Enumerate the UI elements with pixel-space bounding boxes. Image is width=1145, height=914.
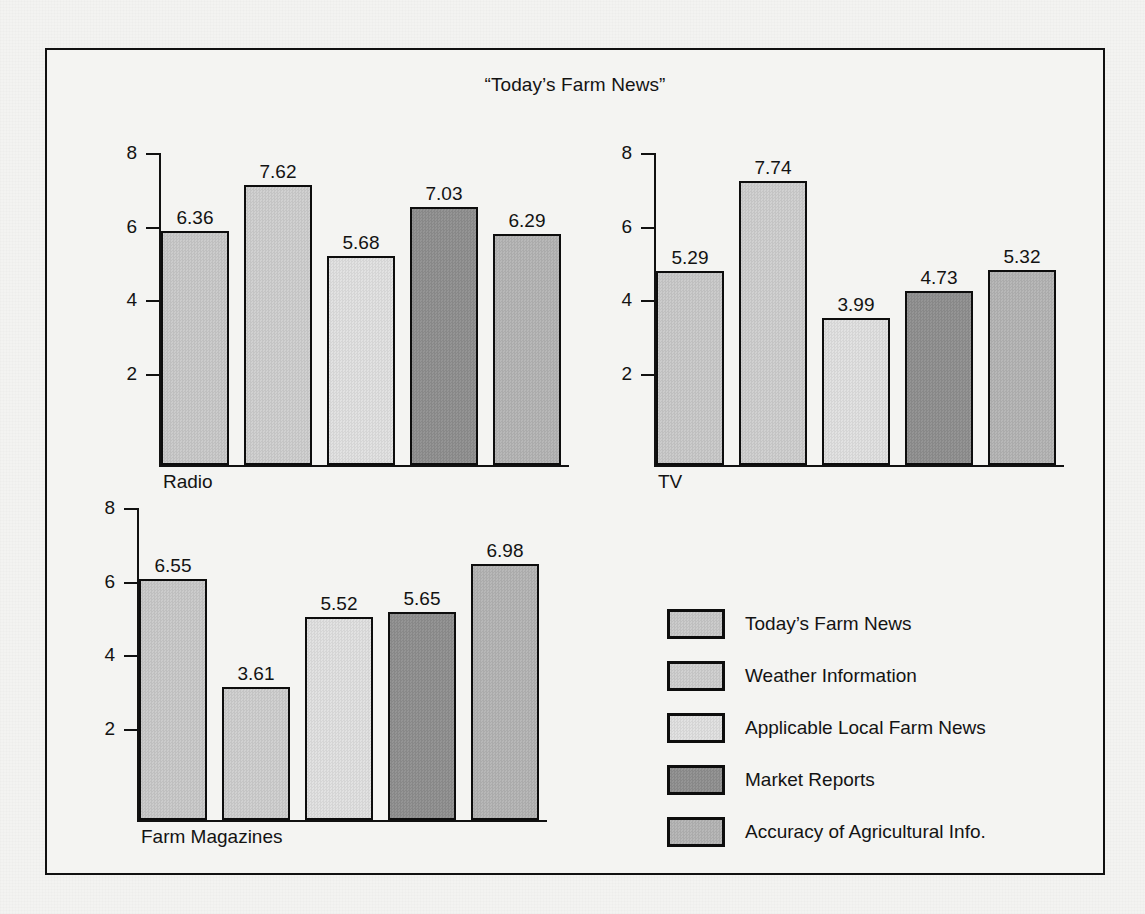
bar-value-label: 7.74 xyxy=(755,157,792,179)
bar[interactable]: 6.36 xyxy=(161,231,229,465)
bar-value-label: 5.29 xyxy=(672,247,709,269)
panel-group-label: Farm Magazines xyxy=(141,826,283,848)
chart-title: “Today’s Farm News” xyxy=(47,74,1103,96)
bar-value-label: 7.03 xyxy=(426,183,463,205)
bars-layer: 6.367.625.687.036.29 xyxy=(161,153,561,465)
legend-item-label: Applicable Local Farm News xyxy=(745,717,986,739)
bar-value-label: 6.36 xyxy=(177,207,214,229)
y-axis-tick xyxy=(124,582,137,584)
legend-swatch xyxy=(667,609,725,639)
panel-group-label: TV xyxy=(658,471,682,493)
legend-item-label: Accuracy of Agricultural Info. xyxy=(745,821,986,843)
bar-halftone-texture xyxy=(246,187,310,463)
legend-item[interactable]: Accuracy of Agricultural Info. xyxy=(667,806,1067,858)
bar-value-label: 5.68 xyxy=(343,232,380,254)
bar[interactable]: 5.32 xyxy=(988,270,1056,466)
bar-halftone-texture xyxy=(907,293,971,463)
legend-item-label: Weather Information xyxy=(745,665,917,687)
legend-swatch xyxy=(667,713,725,743)
x-axis-baseline xyxy=(159,465,569,467)
bar[interactable]: 3.99 xyxy=(822,318,890,465)
bar[interactable]: 7.03 xyxy=(410,207,478,465)
y-axis-tick-label: 6 xyxy=(107,216,137,238)
bar-halftone-texture xyxy=(224,689,288,818)
bar[interactable]: 6.29 xyxy=(493,234,561,465)
bar[interactable]: 5.29 xyxy=(656,271,724,465)
bar[interactable]: 5.68 xyxy=(327,256,395,465)
bar-value-label: 6.98 xyxy=(487,540,524,562)
bar-halftone-texture xyxy=(658,273,722,463)
bar[interactable]: 3.61 xyxy=(222,687,290,820)
legend: Today’s Farm NewsWeather InformationAppl… xyxy=(667,598,1067,858)
y-axis-tick xyxy=(146,227,159,229)
bars-layer: 6.553.615.525.656.98 xyxy=(139,508,539,820)
y-axis-tick xyxy=(124,729,137,731)
y-axis-tick xyxy=(641,153,654,155)
y-axis-tick xyxy=(641,300,654,302)
figure-frame: “Today’s Farm News” 24686.367.625.687.03… xyxy=(45,48,1105,875)
x-axis-baseline xyxy=(137,820,547,822)
bar-halftone-texture xyxy=(390,614,454,818)
bar-value-label: 5.65 xyxy=(404,588,441,610)
legend-swatch-halftone-texture xyxy=(670,820,722,844)
legend-item[interactable]: Today’s Farm News xyxy=(667,598,1067,650)
bar-halftone-texture xyxy=(990,272,1054,464)
legend-item[interactable]: Weather Information xyxy=(667,650,1067,702)
y-axis-tick xyxy=(641,227,654,229)
y-axis-tick-label: 8 xyxy=(85,497,115,519)
bar[interactable]: 7.62 xyxy=(244,185,312,465)
legend-swatch xyxy=(667,817,725,847)
bar-halftone-texture xyxy=(473,566,537,819)
bar-value-label: 7.62 xyxy=(260,161,297,183)
y-axis-tick xyxy=(146,153,159,155)
legend-swatch-halftone-texture xyxy=(670,768,722,792)
bar-halftone-texture xyxy=(495,236,559,463)
bar-halftone-texture xyxy=(824,320,888,463)
bar[interactable]: 5.65 xyxy=(388,612,456,820)
y-axis-tick xyxy=(124,655,137,657)
bar[interactable]: 7.74 xyxy=(739,181,807,465)
y-axis-tick-label: 6 xyxy=(85,571,115,593)
legend-item-label: Market Reports xyxy=(745,769,875,791)
bars-layer: 5.297.743.994.735.32 xyxy=(656,153,1056,465)
y-axis-tick-label: 4 xyxy=(107,289,137,311)
bar-value-label: 4.73 xyxy=(921,267,958,289)
bar-value-label: 6.55 xyxy=(155,555,192,577)
bar[interactable]: 5.52 xyxy=(305,617,373,820)
bar-value-label: 5.52 xyxy=(321,593,358,615)
y-axis-tick-label: 8 xyxy=(602,142,632,164)
legend-swatch-halftone-texture xyxy=(670,612,722,636)
y-axis-tick-label: 2 xyxy=(107,363,137,385)
y-axis-tick xyxy=(641,374,654,376)
bar[interactable]: 4.73 xyxy=(905,291,973,465)
legend-swatch-halftone-texture xyxy=(670,716,722,740)
y-axis-tick-label: 6 xyxy=(602,216,632,238)
y-axis-tick xyxy=(146,374,159,376)
legend-swatch-halftone-texture xyxy=(670,664,722,688)
legend-item[interactable]: Market Reports xyxy=(667,754,1067,806)
panel-tv: 24685.297.743.994.735.32TV xyxy=(592,135,1067,520)
bar[interactable]: 6.98 xyxy=(471,564,539,821)
bar-value-label: 3.61 xyxy=(238,663,275,685)
panel-farm-magazines: 24686.553.615.525.656.98Farm Magazines xyxy=(75,490,550,875)
y-axis-tick-label: 4 xyxy=(85,644,115,666)
bar-value-label: 6.29 xyxy=(509,210,546,232)
bar-halftone-texture xyxy=(412,209,476,463)
y-axis-tick xyxy=(146,300,159,302)
legend-swatch xyxy=(667,661,725,691)
bar-halftone-texture xyxy=(329,258,393,463)
bar[interactable]: 6.55 xyxy=(139,579,207,820)
y-axis-tick-label: 8 xyxy=(107,142,137,164)
y-axis-tick xyxy=(124,508,137,510)
bar-halftone-texture xyxy=(307,619,371,818)
bar-value-label: 5.32 xyxy=(1004,246,1041,268)
y-axis-tick-label: 2 xyxy=(85,718,115,740)
y-axis-tick-label: 4 xyxy=(602,289,632,311)
bar-halftone-texture xyxy=(741,183,805,463)
bar-value-label: 3.99 xyxy=(838,294,875,316)
y-axis-tick-label: 2 xyxy=(602,363,632,385)
x-axis-baseline xyxy=(654,465,1064,467)
legend-item-label: Today’s Farm News xyxy=(745,613,911,635)
legend-swatch xyxy=(667,765,725,795)
legend-item[interactable]: Applicable Local Farm News xyxy=(667,702,1067,754)
